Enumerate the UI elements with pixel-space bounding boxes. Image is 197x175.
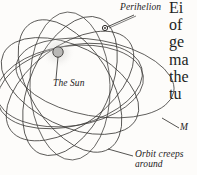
perihelion-leader-line bbox=[107, 15, 134, 27]
body-text-line-6: tu bbox=[169, 85, 197, 102]
perihelion-leader-line-2 bbox=[109, 16, 136, 28]
orbit-creeps-label: Orbit creeps around bbox=[135, 150, 184, 170]
perihelion-dot bbox=[104, 27, 106, 29]
body-text-line-4: ma bbox=[169, 51, 197, 68]
body-text-line-5: the bbox=[169, 68, 197, 85]
orbit-creeps-leader-line bbox=[108, 149, 133, 156]
figure-page: Perihelion The Sun M Orbit creeps around… bbox=[0, 0, 197, 175]
mercury-label: M bbox=[180, 123, 188, 133]
body-text-line-3: ge bbox=[169, 33, 197, 50]
mercury-leader-line bbox=[162, 118, 179, 128]
sun-marker bbox=[53, 47, 63, 57]
body-text-line-2: of bbox=[169, 16, 197, 33]
orbit-creeps-label-line2: around bbox=[135, 160, 184, 170]
orbit-ellipse-outer bbox=[10, 27, 181, 130]
perihelion-label: Perihelion bbox=[120, 3, 161, 13]
body-text-column: Ei of ge ma the tu bbox=[169, 0, 197, 102]
sun-label: The Sun bbox=[53, 79, 85, 89]
body-text-line-1: Ei bbox=[169, 0, 197, 16]
